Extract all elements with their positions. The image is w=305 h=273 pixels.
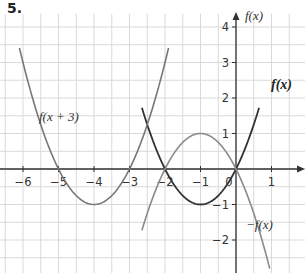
label-neg-f: −f(x) (246, 217, 273, 232)
x-tick-label: −6 (15, 175, 32, 189)
x-tick-label: −4 (86, 175, 103, 189)
y-axis-label: f(x) (245, 8, 263, 23)
y-tick-label: 3 (222, 56, 229, 70)
x-tick-label: −3 (121, 175, 138, 189)
y-tick-label: 1 (222, 127, 229, 141)
y-tick-label: 4 (222, 20, 229, 34)
y-tick-label: −2 (212, 233, 229, 247)
x-tick-label: −5 (50, 175, 67, 189)
x-tick-label: 1 (268, 175, 275, 189)
curve-neg-f (142, 134, 270, 269)
x-axis-arrow-icon (297, 166, 305, 173)
label-f: f(x) (271, 77, 292, 93)
chart: −6−5−4−3−2−1014321−1−2f(x + 3)f(x)−f(x)f… (0, 0, 305, 273)
grid (0, 14, 305, 273)
y-axis-arrow-icon (233, 12, 240, 20)
y-tick-label: 2 (222, 91, 229, 105)
x-tick-label: −1 (192, 175, 209, 189)
label-f-shifted: f(x + 3) (39, 109, 79, 124)
